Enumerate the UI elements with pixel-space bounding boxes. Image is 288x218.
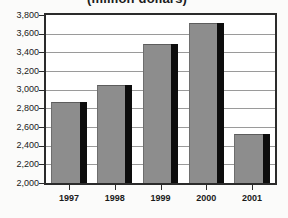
bar-shadow bbox=[171, 44, 178, 183]
y-axis-tick-label: 3,200 bbox=[0, 67, 39, 76]
x-axis-tick-mark bbox=[252, 185, 253, 190]
bar-group bbox=[51, 15, 86, 183]
y-axis-tick-label: 2,800 bbox=[0, 104, 39, 113]
bar-1997 bbox=[51, 102, 79, 183]
bar-shadow bbox=[80, 102, 87, 183]
y-axis-tick-label: 2,400 bbox=[0, 141, 39, 150]
bar-shadow bbox=[217, 23, 224, 183]
chart-title: (million dollars) bbox=[0, 0, 288, 6]
x-axis-tick-label: 1999 bbox=[150, 193, 170, 203]
bar-group bbox=[143, 15, 178, 183]
x-axis-tick-mark bbox=[115, 185, 116, 190]
bar-group bbox=[234, 15, 269, 183]
bar-chart-figure: (million dollars) 3,8003,6003,4003,2003,… bbox=[0, 0, 288, 218]
x-axis-tick-label: 2000 bbox=[196, 193, 216, 203]
x-axis-tick-label: 1997 bbox=[59, 193, 79, 203]
x-axis-tick-label: 2001 bbox=[242, 193, 262, 203]
bar-shadow bbox=[263, 134, 270, 183]
y-axis-tick-label: 3,400 bbox=[0, 48, 39, 57]
x-axis-tick-mark bbox=[161, 185, 162, 190]
bar-2001 bbox=[234, 134, 262, 183]
bar-shadow bbox=[125, 85, 132, 183]
y-axis-tick-label: 2,000 bbox=[0, 179, 39, 188]
bar-group bbox=[189, 15, 224, 183]
x-axis-tick-mark bbox=[69, 185, 70, 190]
x-axis-tick-label: 1998 bbox=[105, 193, 125, 203]
y-axis-tick-label: 3,600 bbox=[0, 29, 39, 38]
bar-1999 bbox=[143, 44, 171, 183]
y-axis-tick-label: 2,600 bbox=[0, 123, 39, 132]
x-axis-tick-mark bbox=[206, 185, 207, 190]
bar-group bbox=[97, 15, 132, 183]
y-axis-tick-label: 3,800 bbox=[0, 11, 39, 20]
bar-1998 bbox=[97, 85, 125, 183]
y-axis-tick-label: 3,000 bbox=[0, 85, 39, 94]
bar-2000 bbox=[189, 23, 217, 183]
plot-area bbox=[44, 13, 277, 185]
y-axis-tick-label: 2,200 bbox=[0, 160, 39, 169]
